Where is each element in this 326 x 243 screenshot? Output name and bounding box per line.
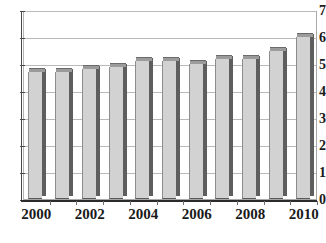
y-tick-mark-1 [20, 173, 25, 174]
bar-2008 [242, 56, 260, 199]
bar-side-face [123, 64, 127, 196]
bar-side-face [229, 56, 233, 196]
y-tick-mark-3 [20, 119, 25, 120]
bar-2000 [28, 69, 46, 199]
bar-top-face [110, 63, 126, 67]
bar-side-face [283, 48, 287, 197]
x-tick-label-2006: 2006 [182, 207, 212, 222]
bar-top-face [243, 55, 259, 59]
bar-side-face [256, 56, 260, 196]
bar-2009 [269, 48, 287, 200]
bar-2006 [189, 61, 207, 199]
y-tick-label-7: 7 [308, 4, 326, 18]
bar-face [109, 67, 123, 199]
y-tick-mark-6 [20, 38, 25, 39]
bar-face [189, 64, 203, 199]
bar-top-face [29, 68, 45, 72]
x-tick-mark-2001 [76, 201, 77, 205]
y-tick-label-3: 3 [308, 112, 326, 126]
y-tick-mark-4 [20, 92, 25, 93]
bar-top-face [56, 68, 72, 72]
bar-face [242, 59, 256, 199]
gridline-6 [24, 38, 316, 39]
bar-side-face [149, 58, 153, 196]
bar-side-face [42, 69, 46, 196]
x-tick-mark-2009 [290, 201, 291, 205]
x-tick-mark-2008 [264, 201, 265, 205]
bar-face [162, 61, 176, 199]
y-tick-mark-5 [20, 65, 25, 66]
y-tick-label-5: 5 [308, 58, 326, 72]
x-tick-mark-2000 [50, 201, 51, 205]
bar-top-face [190, 60, 206, 64]
x-tick-label-2000: 2000 [21, 207, 51, 222]
x-tick-label-2010: 2010 [289, 207, 319, 222]
bar-face [215, 59, 229, 199]
bar-top-face [163, 57, 179, 61]
x-tick-mark-2010 [317, 201, 318, 205]
y-tick-mark-2 [20, 146, 25, 147]
x-tick-mark-2007 [237, 201, 238, 205]
bar-2003 [109, 64, 127, 199]
bar-2002 [82, 66, 100, 199]
y-tick-mark-7 [20, 11, 25, 12]
y-tick-label-1: 1 [308, 166, 326, 180]
x-tick-label-2002: 2002 [75, 207, 105, 222]
bar-face [28, 72, 42, 199]
bar-top-face [136, 57, 152, 61]
bar-side-face [69, 69, 73, 196]
x-tick-label-2008: 2008 [235, 207, 265, 222]
y-tick-label-6: 6 [308, 31, 326, 45]
bar-2007 [215, 56, 233, 199]
bar-2004 [135, 58, 153, 199]
bar-side-face [203, 61, 207, 196]
x-tick-mark-2003 [130, 201, 131, 205]
bar-side-face [176, 58, 180, 196]
y-tick-label-4: 4 [308, 85, 326, 99]
bar-face [269, 51, 283, 200]
bar-2001 [55, 69, 73, 199]
x-tick-mark-2005 [183, 201, 184, 205]
bar-top-face [83, 65, 99, 69]
x-tick-label-2004: 2004 [128, 207, 158, 222]
plot-area [23, 11, 317, 200]
bar-top-face [270, 47, 286, 51]
gridline-7 [24, 11, 316, 12]
bar-2005 [162, 58, 180, 199]
x-tick-mark-2004 [157, 201, 158, 205]
bar-face [55, 72, 69, 199]
x-axis-line [21, 200, 317, 202]
bar-face [82, 69, 96, 199]
x-tick-mark-2006 [210, 201, 211, 205]
bar-side-face [96, 66, 100, 196]
bar-face [135, 61, 149, 199]
bar-top-face [216, 55, 232, 59]
x-tick-mark-2002 [103, 201, 104, 205]
bar-chart: 01234567 200020022004200620082010 [0, 0, 326, 243]
y-tick-label-2: 2 [308, 139, 326, 153]
